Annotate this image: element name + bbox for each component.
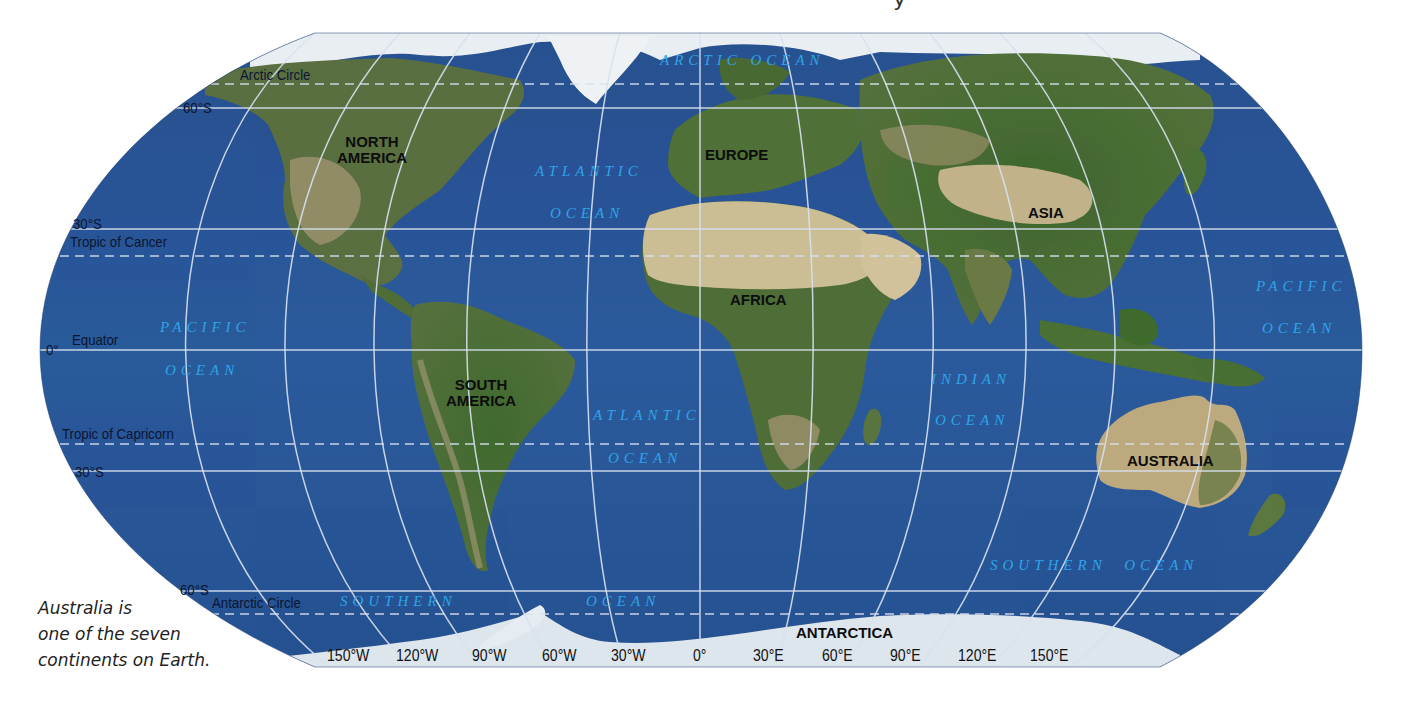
latitude-label-60n: 60°S [183,100,212,115]
map-caption: Australia is one of the seven continents… [38,595,210,673]
arctic-ocean-label: ARCTIC OCEAN [660,53,825,68]
longitude-label-30e: 30°E [753,648,784,664]
caption-line-1: Australia is [38,595,210,621]
pacific-ocean-east-label-2: OCEAN [1262,321,1336,336]
atlantic-ocean-north-label-2: OCEAN [550,206,624,221]
longitude-label-90w: 90°W [472,648,507,664]
latitude-label-30n: 30°S [73,216,102,231]
atlantic-ocean-south-label-2: OCEAN [608,451,682,466]
south-america-label: SOUTH AMERICA [446,377,516,409]
europe-label: EUROPE [705,147,768,163]
pacific-ocean-west-label-2: OCEAN [165,363,239,378]
tropic-of-cancer-label: Tropic of Cancer [70,234,167,249]
longitude-label-150e: 150°E [1030,648,1069,664]
southern-ocean-west-label-2: OCEAN [586,594,660,609]
latitude-label-0: 0° [46,342,59,357]
africa-label: AFRICA [730,292,787,308]
longitude-label-30w: 30°W [611,648,646,664]
asia-label: ASIA [1028,205,1064,221]
north-america-label: NORTH AMERICA [337,134,407,166]
cropped-heading-fragment: y [893,0,906,11]
atlantic-ocean-south-label: ATLANTIC [593,408,701,423]
longitude-label-60e: 60°E [822,648,853,664]
longitude-label-60w: 60°W [542,648,577,664]
pacific-ocean-west-label: PACIFIC [160,320,251,335]
equator-label: Equator [72,332,118,347]
longitude-label-0: 0° [693,648,706,664]
antarctic-circle-label: Antarctic Circle [212,595,301,610]
longitude-label-120e: 120°E [958,648,997,664]
longitude-label-150w: 150°W [327,648,369,664]
latitude-label-30s: 30°S [75,464,104,479]
antarctica-label: ANTARCTICA [796,625,893,641]
pacific-ocean-east-label: PACIFIC [1256,279,1347,294]
indian-ocean-label: INDIAN [931,372,1011,387]
longitude-label-90e: 90°E [890,648,921,664]
longitude-label-120w: 120°W [396,648,438,664]
australia-label: AUSTRALIA [1127,453,1214,469]
tropic-of-capricorn-label: Tropic of Capricorn [62,426,174,441]
southern-ocean-east-label: SOUTHERN OCEAN [990,558,1198,573]
indian-ocean-label-2: OCEAN [935,413,1009,428]
caption-line-3: continents on Earth. [38,647,210,673]
arctic-circle-label: Arctic Circle [240,67,310,82]
southern-ocean-west-label: SOUTHERN [340,594,457,609]
atlantic-ocean-north-label: ATLANTIC [535,164,643,179]
caption-line-2: one of the seven [38,621,210,647]
